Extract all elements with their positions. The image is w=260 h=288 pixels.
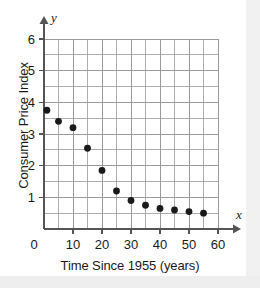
data-point	[70, 124, 77, 131]
x-tick-label: 30	[124, 237, 138, 252]
plot-canvas: 0102030405060 123456 x y	[0, 0, 260, 288]
axis-ticks	[39, 39, 218, 234]
data-point	[44, 107, 51, 114]
data-point	[55, 118, 62, 125]
axis-lines	[40, 16, 242, 234]
x-tick-label: 60	[211, 237, 225, 252]
y-axis-symbol: y	[49, 10, 57, 25]
x-tick-label: 10	[66, 237, 80, 252]
data-point	[171, 207, 178, 214]
data-point	[128, 197, 135, 204]
x-tick-label: 0	[30, 237, 37, 252]
x-tick-label: 40	[153, 237, 167, 252]
scatter-plot-figure: 0102030405060 123456 x y Consumer Price …	[0, 0, 260, 288]
x-tick-label: 20	[95, 237, 109, 252]
data-point	[186, 208, 193, 215]
data-point	[84, 145, 91, 152]
x-axis-symbol: x	[235, 207, 242, 222]
x-tick-label: 50	[182, 237, 196, 252]
data-point	[157, 205, 164, 212]
data-point	[113, 188, 120, 195]
y-axis-title: Consumer Price Index	[16, 31, 31, 221]
data-point	[200, 210, 207, 217]
x-axis-title: Time Since 1955 (years)	[30, 258, 230, 273]
data-point	[142, 202, 149, 209]
data-points	[44, 107, 207, 217]
x-tick-labels: 0102030405060	[30, 237, 225, 252]
data-point	[99, 167, 106, 174]
